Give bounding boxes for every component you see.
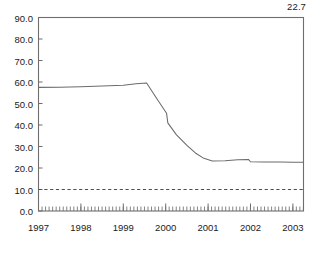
y-axis-label-80.0: 80.0 <box>0 34 33 45</box>
line-chart-plot <box>0 0 314 253</box>
y-axis-label-50.0: 50.0 <box>0 98 33 109</box>
x-axis-label-2000: 2000 <box>155 222 176 233</box>
x-axis-label-2001: 2001 <box>198 222 219 233</box>
x-axis-minor-ticks <box>39 207 304 212</box>
x-axis-label-2002: 2002 <box>240 222 261 233</box>
y-axis-tick-marks <box>39 18 43 212</box>
x-axis-label-1999: 1999 <box>113 222 134 233</box>
y-axis-label-10.0: 10.0 <box>0 184 33 195</box>
y-axis-label-40.0: 40.0 <box>0 120 33 131</box>
y-axis-label-30.0: 30.0 <box>0 141 33 152</box>
x-axis-label-2003: 2003 <box>282 222 303 233</box>
y-axis-label-0.0: 0.0 <box>0 206 33 217</box>
plot-frame <box>39 18 304 212</box>
y-axis-label-90.0: 90.0 <box>0 12 33 23</box>
x-axis-major-ticks <box>39 204 293 212</box>
x-axis-label-1998: 1998 <box>70 222 91 233</box>
series-line-1 <box>39 83 304 162</box>
x-axis-label-1997: 1997 <box>28 222 49 233</box>
chart-container: 22.7 0.010.020.030.040.050.060.070.080.0… <box>0 0 314 253</box>
y-axis-label-60.0: 60.0 <box>0 77 33 88</box>
y-axis-label-70.0: 70.0 <box>0 55 33 66</box>
y-axis-label-20.0: 20.0 <box>0 163 33 174</box>
data-series-group <box>39 83 304 162</box>
